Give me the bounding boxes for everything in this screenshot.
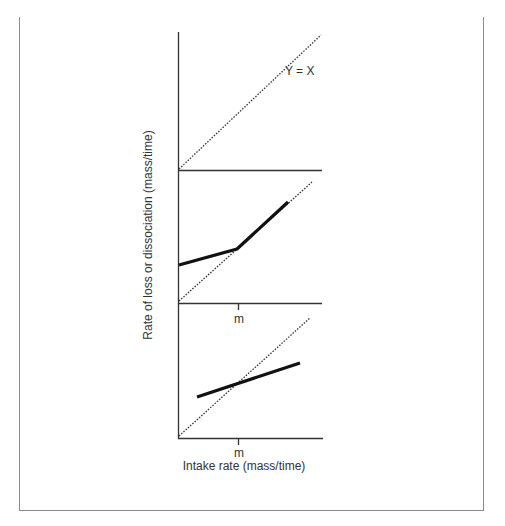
reference-line-label: Y = X: [285, 64, 314, 78]
tick-label-m-bottom: m: [234, 446, 244, 460]
reference-line-bottom: [179, 318, 310, 436]
y-axis-label: Rate of loss or dissociation (mass/time): [141, 130, 155, 339]
reference-line-top: [179, 35, 321, 169]
response-line-middle: [179, 202, 288, 265]
panel-middle: [178, 182, 322, 310]
panel-top: [178, 35, 322, 171]
x-axis-label: Intake rate (mass/time): [183, 459, 306, 473]
response-line-bottom: [197, 363, 300, 397]
panel-bottom: [178, 318, 323, 445]
tick-label-m-middle: m: [234, 312, 244, 326]
diagram-canvas: [0, 0, 505, 526]
